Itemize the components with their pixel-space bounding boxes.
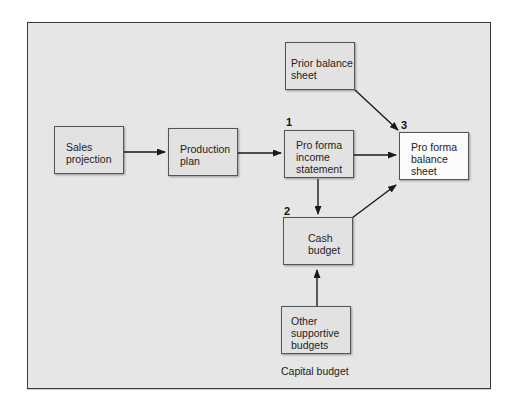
node-label: supportive — [291, 327, 350, 339]
node-label: Pro forma — [296, 139, 353, 151]
node-label: income — [296, 151, 353, 163]
connector-arrows — [0, 0, 515, 418]
node-label: sheet — [411, 165, 468, 177]
node-label: projection — [66, 153, 123, 165]
step-number-2: 2 — [284, 205, 290, 217]
node-label: budgets — [291, 339, 350, 351]
node-label: Production — [180, 143, 237, 155]
node-prior-balance-sheet: Prior balance sheet — [285, 42, 355, 90]
node-label: Sales — [66, 141, 123, 153]
node-label: balance — [411, 153, 468, 165]
node-label: sheet — [291, 69, 354, 81]
node-label: Pro forma — [411, 141, 468, 153]
node-label: budget — [308, 244, 352, 256]
node-sales-projection: Sales projection — [54, 126, 124, 174]
node-pro-forma-balance-sheet: Pro forma balance sheet — [399, 132, 469, 180]
capital-budget-caption: Capital budget — [281, 365, 349, 377]
node-label: statement — [296, 163, 353, 175]
step-number-3: 3 — [401, 119, 407, 131]
step-number-1: 1 — [286, 116, 292, 128]
node-other-supportive-budgets: Other supportive budgets — [281, 306, 351, 354]
node-production-plan: Production plan — [168, 128, 238, 176]
node-label: Prior balance — [291, 57, 354, 69]
node-label: Cash — [308, 232, 352, 244]
node-pro-forma-income-statement: Pro forma income statement — [284, 130, 354, 178]
node-cash-budget: Cash budget — [283, 217, 353, 265]
node-label: Other — [291, 315, 350, 327]
node-label: plan — [180, 155, 237, 167]
